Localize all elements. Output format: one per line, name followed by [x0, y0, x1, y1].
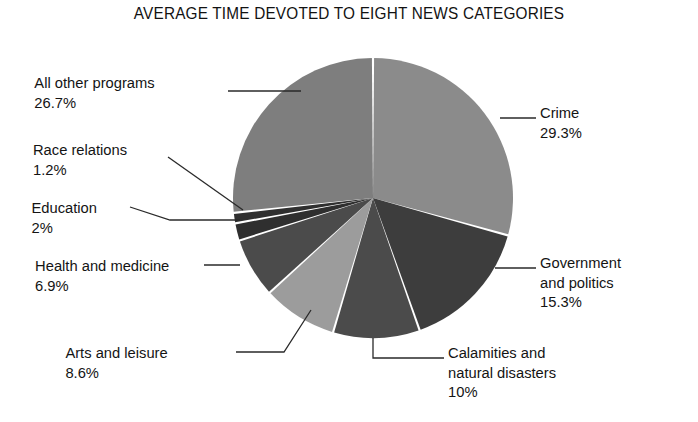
slice-label-name: Arts and leisure: [65, 343, 167, 363]
slice-label-value: 29.3%: [540, 123, 582, 143]
slice-label-race-relations: Race relations 1.2%: [33, 140, 127, 179]
leader-line-education: [130, 207, 240, 220]
slice-label-name-line2: natural disasters: [448, 363, 556, 383]
slice-label-name: Race relations: [33, 140, 127, 160]
slice-label-name-line2: and politics: [540, 273, 621, 293]
slice-label-value: 15.3%: [540, 292, 621, 312]
leader-line-race: [168, 157, 243, 210]
slice-label-name-line1: Government: [540, 253, 621, 273]
slice-label-name: Crime: [540, 103, 582, 123]
pie-chart-figure: AVERAGE TIME DEVOTED TO EIGHT NEWS CATEG…: [0, 0, 698, 422]
slice-label-value: 26.7%: [34, 93, 154, 113]
slice-label-name: Education: [31, 198, 97, 218]
leader-line-calamities: [373, 338, 444, 358]
slice-label-name: All other programs: [34, 73, 154, 93]
slice-label-value: 6.9%: [35, 276, 169, 296]
slice-label-value: 1.2%: [33, 160, 127, 180]
pie-slice-group: Crime 29.3%Government and politics 15.3%…: [233, 58, 514, 339]
slice-label-all-other-programs: All other programs 26.7%: [34, 73, 154, 112]
slice-label-value: 10%: [448, 382, 556, 402]
slice-label-health-and-medicine: Health and medicine 6.9%: [35, 256, 169, 295]
slice-label-value: 2%: [31, 218, 97, 238]
slice-label-crime: Crime 29.3%: [540, 103, 582, 142]
slice-label-name-line1: Calamities and: [448, 343, 556, 363]
pie-slice-all-other-programs: All other programs 26.7%: [233, 58, 373, 212]
slice-label-government-and-politics: Government and politics 15.3%: [540, 253, 621, 312]
slice-label-name: Health and medicine: [35, 256, 169, 276]
slice-label-arts-and-leisure: Arts and leisure 8.6%: [65, 343, 167, 382]
slice-label-education: Education 2%: [31, 198, 97, 237]
slice-label-calamities-and-natural-disasters: Calamities and natural disasters 10%: [448, 343, 556, 402]
slice-label-value: 8.6%: [65, 363, 167, 383]
